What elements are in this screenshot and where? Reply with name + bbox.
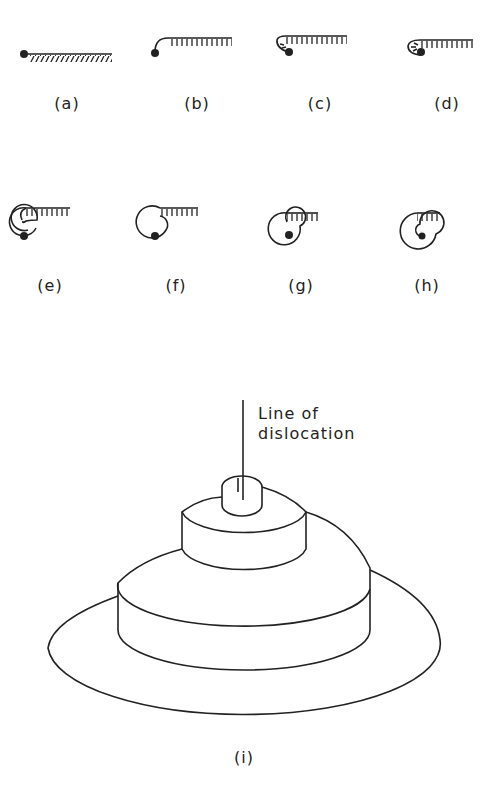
panel-h-spiral bbox=[400, 211, 444, 249]
panel-a-step bbox=[20, 50, 112, 62]
panel-d-step bbox=[408, 40, 473, 56]
panel-d-label: (d) bbox=[434, 94, 460, 113]
annotation-line-2: dislocation bbox=[258, 424, 355, 444]
panel-b-label: (b) bbox=[184, 94, 210, 113]
spiral-growth-diagram bbox=[0, 0, 485, 787]
panel-a-label: (a) bbox=[54, 94, 79, 113]
panel-c-step bbox=[277, 36, 347, 56]
panel-f-spiral bbox=[136, 206, 198, 240]
panel-e-label: (e) bbox=[37, 276, 62, 295]
panel-f-label: (f) bbox=[165, 276, 186, 295]
panel-i-label: (i) bbox=[234, 748, 254, 767]
panel-g-spiral bbox=[268, 207, 318, 245]
panel-b-step bbox=[151, 38, 232, 57]
spiral-terrace-3d bbox=[48, 400, 440, 714]
panel-c-label: (c) bbox=[308, 94, 332, 113]
panel-e-spiral bbox=[9, 205, 70, 240]
panel-h-label: (h) bbox=[414, 276, 440, 295]
annotation-line-1: Line of bbox=[258, 404, 355, 424]
dislocation-annotation: Line of dislocation bbox=[258, 404, 355, 444]
panel-g-label: (g) bbox=[288, 276, 314, 295]
